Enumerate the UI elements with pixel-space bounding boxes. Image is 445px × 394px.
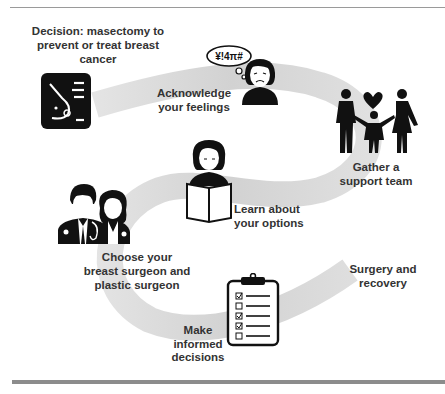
step-label-decision: Decision: masectomy to prevent or treat …: [28, 24, 168, 66]
doctors-icon: [56, 180, 146, 246]
step-label-decide: Make informed decisions: [168, 324, 228, 365]
bottom-divider: [12, 380, 445, 384]
step-label-surgery: Surgery and recovery: [340, 262, 426, 290]
breast-profile-icon: [40, 72, 92, 130]
step-label-feelings: Acknowledge your feelings: [152, 86, 236, 114]
family-heart-icon: [334, 85, 420, 155]
upset-woman-icon: [236, 55, 284, 105]
step-label-surgeons: Choose your breast surgeon and plastic s…: [82, 250, 192, 292]
step-label-learn: Learn about your options: [234, 202, 314, 230]
woman-reading-book-icon: [185, 138, 235, 224]
clipboard-checklist-icon: [226, 273, 280, 347]
step-label-support: Gather a support team: [338, 160, 414, 188]
